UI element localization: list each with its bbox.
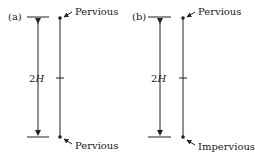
top-boundary-label: Pervious (198, 6, 241, 17)
bottom-pointer-arrow (187, 140, 195, 145)
top-boundary-dot (58, 16, 62, 20)
bottom-pointer-arrow (64, 139, 72, 144)
thickness-label: 2H (151, 73, 166, 84)
bottom-boundary-dot (58, 135, 62, 139)
bottom-boundary-label: Pervious (75, 140, 118, 151)
top-boundary-label: Pervious (75, 6, 118, 17)
panel-a-tag: (a) (8, 11, 22, 22)
thickness-label: 2H (29, 73, 44, 84)
panel-b: (b) 2H Pervious Impervious (132, 6, 255, 152)
panel-b-tag: (b) (132, 11, 146, 22)
top-boundary-dot (181, 16, 185, 20)
top-pointer-arrow (187, 12, 195, 17)
bottom-boundary-dot (181, 135, 185, 139)
panel-a: (a) 2H Pervious Pervious (8, 6, 118, 151)
top-pointer-arrow (64, 12, 72, 17)
bottom-boundary-label: Impervious (198, 141, 255, 152)
drainage-diagram: (a) 2H Pervious Pervious (b) 2H Pervious… (0, 0, 255, 163)
